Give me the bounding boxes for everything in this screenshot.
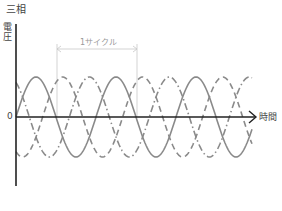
cycle-marker (57, 44, 137, 117)
three-phase-diagram (0, 0, 282, 211)
